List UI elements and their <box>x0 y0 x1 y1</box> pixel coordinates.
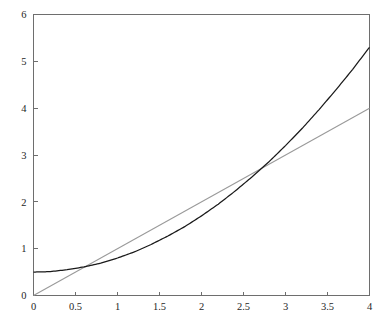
y-tick-label-6: 6 <box>21 9 26 20</box>
x-axis-ticks <box>34 292 370 296</box>
y-tick-label-0: 0 <box>21 290 26 301</box>
y-tick-label-1: 1 <box>21 243 26 254</box>
y-axis-tick-labels: 0123456 <box>21 9 27 301</box>
chart-figure: 00.511.522.533.54 0123456 <box>0 0 389 324</box>
y-tick-label-3: 3 <box>21 150 26 161</box>
y-tick-label-5: 5 <box>21 56 26 67</box>
y-axis-ticks <box>34 15 38 296</box>
x-tick-label-7: 3.5 <box>321 301 334 312</box>
plot-frame <box>34 15 370 296</box>
y-tick-label-2: 2 <box>21 197 26 208</box>
x-tick-label-3: 1.5 <box>153 301 166 312</box>
x-axis-tick-labels: 00.511.522.533.54 <box>31 301 373 312</box>
x-tick-label-6: 3 <box>283 301 288 312</box>
x-tick-label-5: 2.5 <box>237 301 250 312</box>
plot-svg: 00.511.522.533.54 0123456 <box>0 0 389 324</box>
x-tick-label-1: 0.5 <box>69 301 82 312</box>
y-tick-label-4: 4 <box>21 103 27 114</box>
x-tick-label-2: 1 <box>115 301 120 312</box>
x-tick-label-0: 0 <box>31 301 36 312</box>
x-tick-label-4: 2 <box>199 301 204 312</box>
x-tick-label-8: 4 <box>367 301 373 312</box>
series-quadratic-curve <box>34 47 370 272</box>
